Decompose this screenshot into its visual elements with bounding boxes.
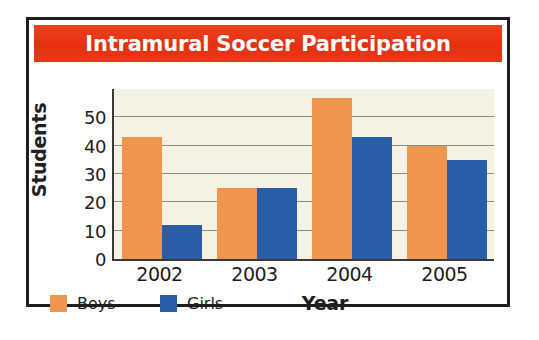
y-axis-tick-label: 20: [70, 192, 106, 213]
bar-boys-2004: [312, 98, 352, 260]
x-axis-tick-label: 2005: [421, 263, 467, 285]
bar-group-2005: [407, 89, 487, 259]
y-axis-tick-label: 0: [70, 249, 106, 270]
bar-girls-2002: [162, 225, 202, 259]
bar-girls-2005: [447, 160, 487, 259]
y-axis-tick-labels: 01020304050: [70, 89, 106, 259]
y-axis-tick-label: 10: [70, 220, 106, 241]
legend-swatch-girls-icon: [160, 295, 177, 312]
legend-item-girls: Girls: [160, 291, 223, 315]
x-axis-tick-label: 2004: [326, 263, 372, 285]
bar-group-2002: [122, 89, 202, 259]
bar-boys-2005: [407, 146, 447, 259]
x-axis-tick-labels: 2002200320042005: [112, 263, 492, 289]
bar-boys-2003: [217, 188, 257, 259]
chart-title-bar: Intramural Soccer Participation: [34, 25, 502, 62]
y-axis-tick-label: 50: [70, 107, 106, 128]
y-axis-tick-label: 30: [70, 164, 106, 185]
y-axis-tick-label: 40: [70, 135, 106, 156]
chart-title: Intramural Soccer Participation: [85, 32, 450, 56]
chart-body: Students 01020304050 2002200320042005 Bo…: [34, 67, 502, 299]
bar-group-2003: [217, 89, 297, 259]
x-axis-tick-label: 2002: [136, 263, 182, 285]
bars-layer: [114, 89, 494, 259]
bar-boys-2002: [122, 137, 162, 259]
legend: Boys Girls Year: [50, 291, 494, 319]
legend-swatch-boys-icon: [50, 295, 67, 312]
bar-girls-2004: [352, 137, 392, 259]
legend-label-girls: Girls: [187, 294, 223, 313]
plot-area: [112, 89, 494, 261]
bar-girls-2003: [257, 188, 297, 259]
y-axis-title: Students: [28, 85, 50, 215]
legend-label-boys: Boys: [77, 294, 116, 313]
legend-item-boys: Boys: [50, 291, 116, 315]
chart-figure-frame: Intramural Soccer Participation Students…: [26, 17, 510, 307]
x-axis-tick-label: 2003: [231, 263, 277, 285]
bar-group-2004: [312, 89, 392, 259]
x-axis-title: Year: [240, 291, 410, 315]
